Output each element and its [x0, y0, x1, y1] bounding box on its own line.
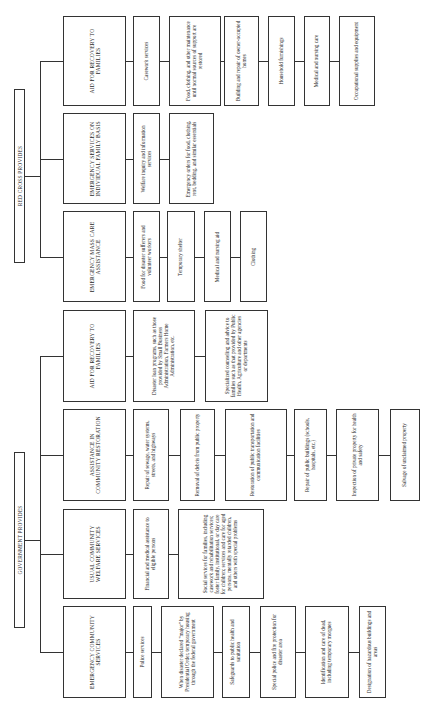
leaf-box-label: Social services for families, including … [203, 513, 239, 595]
category-box-label: EMERGENCY COMMUNITY SERVICES [88, 613, 101, 691]
category-box: EMERGENCY SERVICES ON INDIVIDUAL FAMILY … [63, 113, 126, 204]
leaf-box-label: When disaster declared "major" by Presid… [179, 610, 197, 694]
category-box: AID FOR RECOVERY TO FAMILIES [63, 310, 126, 402]
leaf-box-label: Medical and nursing aid [215, 215, 221, 298]
leaf-box: Casework services [133, 16, 160, 106]
leaf-box-label: Financial and medical assistance to elig… [145, 513, 157, 595]
leaf-box: Financial and medical assistance to elig… [133, 509, 169, 599]
government-trunk [40, 356, 41, 652]
category-box: USUAL COMMUNITY WELFARE SERVICES [63, 509, 126, 599]
leaf-box-label: Occupational supplies and equipment [354, 20, 360, 102]
leaf-box-label: Repair of public buildings (schools, hos… [305, 413, 317, 497]
leaf-box-label: Identification and care of dead, includi… [321, 610, 333, 694]
leaf-box-label: Emergency orders for food, clothing, ren… [186, 117, 198, 200]
leaf-box: Salvage of unclaimed property [390, 409, 420, 501]
leaf-box: Repair of public buildings (schools, hos… [294, 409, 327, 501]
leaf-box: Household furnishings [268, 16, 295, 106]
leaf-box: Specialized counseling and advice to fam… [205, 310, 268, 402]
leaf-box-label: Disaster loan programs, such as those pr… [152, 314, 176, 398]
leaf-box: Identification and care of dead, includi… [305, 606, 349, 698]
category-box: AID FOR RECOVERY TO FAMILIES [63, 16, 126, 106]
leaf-box-label: Repair of sewage, water systems, streets… [145, 413, 157, 497]
category-box-label: AID FOR RECOVERY TO FAMILIES [88, 317, 101, 395]
leaf-box-label: Food, clothing, and other maintenance un… [186, 20, 204, 102]
leaf-box: Food, clothing, and other maintenance un… [169, 16, 221, 106]
leaf-box-label: Specialized counseling and advice to fam… [225, 314, 249, 398]
leaf-box: Disaster loan programs, such as those pr… [133, 310, 195, 402]
category-branch [40, 257, 63, 258]
leaf-box-label: Welfare inquiry and information services [141, 117, 153, 200]
leaf-box-label: Removal of debris from public property [195, 413, 201, 497]
category-branch [40, 455, 63, 456]
leaf-box-label: Temporary shelter [178, 215, 184, 298]
leaf-box: Building and repair of owner-occupied ho… [224, 16, 259, 106]
leaf-box-label: Salvage of unclaimed property [402, 413, 408, 497]
category-box-label: EMERGENCY MASS CARE ASSISTANCE [88, 218, 101, 295]
category-branch [40, 554, 63, 555]
category-box-label: AID FOR RECOVERY TO FAMILIES [88, 23, 101, 99]
leaf-box: Repair of sewage, water systems, streets… [133, 409, 169, 501]
leaf-box-label: Medical and nursing care [314, 20, 320, 102]
leaf-box: Safeguards to public health and sanitati… [222, 606, 250, 698]
government-root: GOVERNMENT PROVIDES [14, 452, 25, 628]
category-box-label: EMERGENCY SERVICES ON INDIVIDUAL FAMILY … [88, 120, 101, 197]
leaf-box: Removal of debris from public property [180, 409, 215, 501]
category-box: ASSISTANCE IN COMMUNITY RESTORATION [63, 409, 126, 501]
government-root-label: GOVERNMENT PROVIDES [16, 505, 22, 574]
leaf-box: Restoration of public transportation and… [225, 409, 287, 501]
leaf-box: Occupational supplies and equipment [339, 16, 375, 106]
category-box: EMERGENCY MASS CARE ASSISTANCE [63, 211, 126, 302]
leaf-box: Food for disaster sufferers and voluntee… [133, 211, 160, 302]
leaf-box-label: Household furnishings [279, 20, 285, 102]
leaf-box: Temporary shelter [167, 211, 195, 302]
red-cross-root: RED CROSS PROVIDES [14, 89, 25, 263]
leaf-box: Social services for families, including … [178, 509, 264, 599]
category-branch [40, 61, 63, 62]
leaf-box: Welfare inquiry and information services [133, 113, 160, 204]
leaf-box: Inspection of private property for healt… [336, 409, 379, 501]
leaf-box-label: Safeguards to public health and sanitati… [230, 610, 242, 694]
leaf-box-label: Building and repair of owner-occupied ho… [236, 20, 248, 102]
leaf-box-label: Food for disaster sufferers and voluntee… [141, 215, 153, 298]
leaf-box: When disaster declared "major" by Presid… [161, 606, 214, 698]
leaf-box: Medical and nursing care [304, 16, 330, 106]
category-box-label: ASSISTANCE IN COMMUNITY RESTORATION [88, 416, 101, 494]
leaf-box: Police services [133, 606, 152, 698]
leaf-box-label: Inspection of private property for healt… [352, 413, 364, 497]
category-box: EMERGENCY COMMUNITY SERVICES [63, 606, 126, 698]
category-box-label: USUAL COMMUNITY WELFARE SERVICES [88, 516, 101, 592]
leaf-box: Designation of hazardous buildings and a… [359, 606, 386, 698]
leaf-box: Special police and fire protection for d… [260, 606, 296, 698]
leaf-box: Clothing [240, 211, 267, 302]
category-branch [40, 356, 63, 357]
leaf-box: Emergency orders for food, clothing, ren… [169, 113, 214, 204]
government-connector [25, 540, 40, 541]
category-branch [40, 652, 63, 653]
leaf-box-label: Casework services [144, 20, 150, 102]
category-branch [40, 159, 63, 160]
leaf-box-label: Police services [140, 610, 146, 694]
leaf-box-label: Designation of hazardous buildings and a… [367, 610, 379, 694]
red-cross-connector [25, 176, 40, 177]
red-cross-root-label: RED CROSS PROVIDES [16, 146, 22, 207]
leaf-box-label: Clothing [251, 215, 257, 298]
leaf-box-label: Restoration of public transportation and… [250, 413, 262, 497]
leaf-box: Medical and nursing aid [204, 211, 231, 302]
leaf-box-label: Special police and fire protection for d… [272, 610, 284, 694]
